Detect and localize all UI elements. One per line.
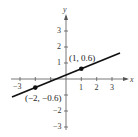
x-axis-label: x [129,75,134,84]
point-marker [33,85,38,90]
y-axis-label: y [62,5,67,14]
y-tick-label: 1 [57,58,61,67]
y-tick-label: 2 [57,42,61,51]
point-label-b: (1, 0.6) [69,53,95,63]
y-axis-arrow-icon [64,14,68,20]
x-tick-label: −3 [13,82,22,91]
graph: −3 1 2 3 3 2 1 −2 −3 x y (−2, −0.6) (1, … [0,0,138,137]
x-tick-label: 3 [110,83,114,92]
y-tick-label: 3 [57,26,61,35]
x-tick-label: 1 [79,83,83,92]
y-tick-label: −3 [53,122,62,131]
x-axis-arrow-icon [123,77,129,81]
y-tick-label: −2 [53,106,62,115]
point-marker [79,67,84,72]
x-tick-label: 2 [95,83,99,92]
point-label-a: (−2, −0.6) [25,93,61,103]
